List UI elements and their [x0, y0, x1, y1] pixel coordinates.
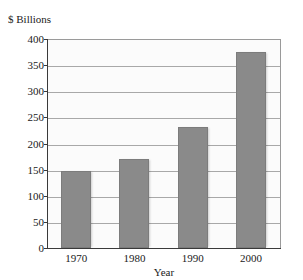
y-axis-tick-mark	[44, 39, 47, 40]
bar	[236, 52, 266, 248]
x-axis-line	[47, 248, 281, 249]
x-axis-tick-label: 1970	[51, 252, 101, 264]
y-axis-tick-label: 150	[4, 165, 44, 176]
y-axis-tick-mark	[44, 144, 47, 145]
bar	[61, 171, 91, 248]
y-axis-tick-mark	[44, 65, 47, 66]
y-axis-tick-mark	[44, 248, 47, 249]
x-axis-tick-label: 2000	[226, 252, 276, 264]
y-axis-tick-label: 350	[4, 60, 44, 71]
x-axis-tick-label: 1990	[168, 252, 218, 264]
y-axis-tick-mark	[44, 117, 47, 118]
y-axis-tick-mark	[44, 196, 47, 197]
y-axis-tick-label: 300	[4, 86, 44, 97]
y-axis-tick-label: 0	[4, 243, 44, 254]
x-axis-title: Year	[47, 266, 281, 278]
y-axis-line	[47, 39, 48, 249]
bar	[178, 127, 208, 248]
y-axis-tick-label: 100	[4, 191, 44, 202]
x-axis-tick-label: 1980	[109, 252, 159, 264]
y-axis-tick-label: 50	[4, 217, 44, 228]
y-axis-tick-label: 400	[4, 34, 44, 45]
y-axis-tick-labels: 400350300250200150100500	[0, 0, 44, 280]
y-axis-tick-label: 200	[4, 139, 44, 150]
y-axis-tick-mark	[44, 222, 47, 223]
bar	[119, 159, 149, 248]
y-axis-tick-mark	[44, 170, 47, 171]
chart-title-remnant	[0, 0, 303, 6]
y-axis-tick-label: 250	[4, 112, 44, 123]
bar-chart: $ Billions 400350300250200150100500 1970…	[0, 0, 303, 280]
y-axis-tick-mark	[44, 91, 47, 92]
